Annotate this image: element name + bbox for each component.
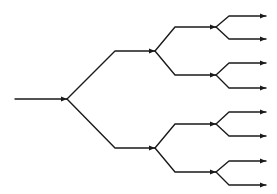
branch-edge-l1-lower [67, 99, 155, 148]
diagram-edges [15, 16, 266, 185]
arrowhead-icon [210, 25, 216, 30]
binary-branching-diagram [0, 0, 277, 194]
branch-edge-l3-lower [216, 75, 266, 88]
arrowhead-icon [210, 170, 216, 175]
arrowhead-icon [260, 134, 266, 139]
branch-edge-l2-upper [155, 124, 216, 148]
arrowhead-icon [260, 86, 266, 91]
arrowhead-icon [149, 49, 155, 54]
branch-edge-l1-upper [67, 51, 155, 99]
branch-edge-l3-lower [216, 172, 266, 185]
arrowhead-icon [210, 73, 216, 78]
arrowhead-icon [260, 14, 266, 19]
arrowhead-icon [149, 146, 155, 151]
branch-edge-l2-lower [155, 148, 216, 172]
branch-edge-l2-upper [155, 27, 216, 51]
arrowhead-icon [260, 183, 266, 188]
arrowhead-icon [260, 110, 266, 115]
arrowhead-icon [260, 159, 266, 164]
branch-edge-l2-lower [155, 51, 216, 75]
branch-edge-l3-upper [216, 63, 266, 75]
branch-edge-l3-upper [216, 16, 266, 27]
branch-edge-l3-lower [216, 27, 266, 39]
arrowhead-icon [61, 97, 67, 102]
arrowhead-icon [210, 122, 216, 127]
branch-edge-l3-upper [216, 112, 266, 124]
arrowhead-icon [260, 37, 266, 42]
branch-edge-l3-lower [216, 124, 266, 136]
arrowhead-icon [260, 61, 266, 66]
branch-edge-l3-upper [216, 161, 266, 172]
